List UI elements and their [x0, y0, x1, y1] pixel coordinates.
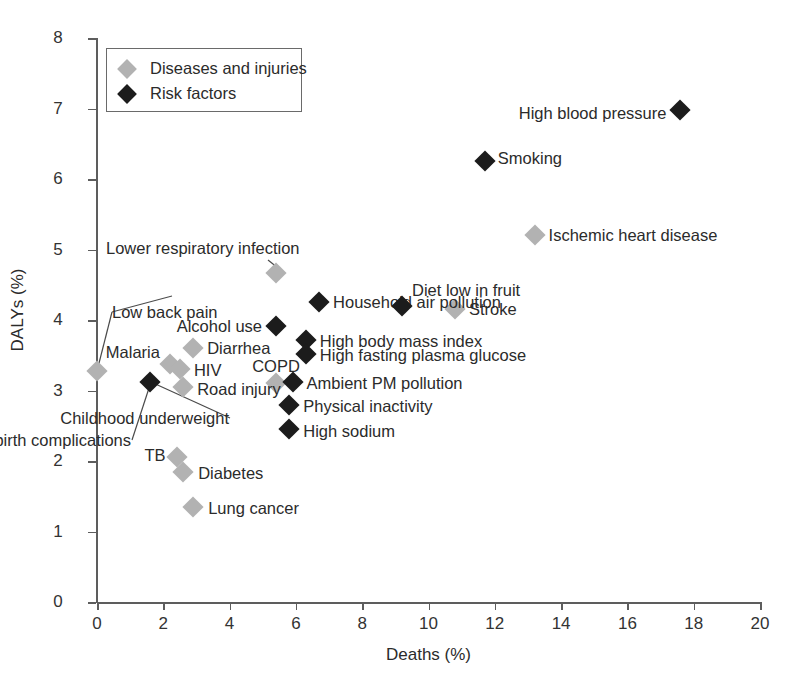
y-tick-label: 5 — [53, 240, 62, 260]
legend-label-risk-factors: Risk factors — [150, 84, 236, 103]
x-tick-mark — [429, 602, 431, 610]
x-tick-label: 12 — [485, 614, 504, 634]
x-tick-label: 0 — [92, 614, 101, 634]
x-axis-title: Deaths (%) — [97, 645, 760, 665]
legend: Diseases and injuries Risk factors — [106, 48, 302, 112]
data-point-household-air-pollution — [308, 292, 329, 313]
x-tick-mark — [163, 602, 165, 610]
x-tick-label: 14 — [552, 614, 571, 634]
data-label-hiv: HIV — [194, 362, 222, 379]
data-point-high-sodium — [279, 419, 300, 440]
x-tick-label: 2 — [159, 614, 168, 634]
y-tick-label: 8 — [53, 28, 62, 48]
x-tick-mark — [97, 602, 99, 610]
y-axis-line — [96, 38, 98, 603]
x-tick-label: 10 — [419, 614, 438, 634]
y-tick-mark — [88, 38, 96, 40]
data-point-childhood-underweight — [139, 371, 160, 392]
y-tick-mark — [88, 532, 96, 534]
data-label-tb: TB — [144, 447, 165, 464]
x-tick-mark — [495, 602, 497, 610]
data-point-alcohol-use — [265, 315, 286, 336]
x-tick-label: 6 — [291, 614, 300, 634]
y-tick-mark — [88, 179, 96, 181]
data-point-lower-respiratory-infection — [265, 262, 286, 283]
data-label-lower-respiratory-infection: Lower respiratory infection — [106, 240, 300, 257]
data-point-smoking — [474, 151, 495, 172]
y-tick-mark — [88, 320, 96, 322]
y-tick-label: 3 — [53, 381, 62, 401]
y-tick-label: 0 — [53, 592, 62, 612]
data-point-high-blood-pressure — [670, 99, 691, 120]
x-tick-mark — [627, 602, 629, 610]
data-label-physical-inactivity: Physical inactivity — [303, 397, 432, 414]
data-label-high-fasting-plasma-glucose: High fasting plasma glucose — [320, 347, 526, 364]
data-point-diarrhea — [183, 338, 204, 359]
data-label-diet-low-in-fruit: Diet low in fruit — [412, 282, 520, 299]
y-tick-mark — [88, 109, 96, 111]
data-point-road-injury — [173, 376, 194, 397]
data-point-physical-inactivity — [279, 394, 300, 415]
legend-item-diseases: Diseases and injuries — [116, 56, 292, 81]
y-tick-mark — [88, 461, 96, 463]
y-axis-title: DALYs (%) — [8, 230, 28, 390]
data-point-ischemic-heart-disease — [524, 225, 545, 246]
x-tick-mark — [362, 602, 364, 610]
x-tick-label: 20 — [751, 614, 770, 634]
x-tick-mark — [760, 602, 762, 610]
y-tick-mark — [88, 391, 96, 393]
x-tick-label: 16 — [618, 614, 637, 634]
diamond-marker-icon — [117, 59, 137, 79]
data-point-low-back-pain — [86, 361, 107, 382]
x-tick-mark — [694, 602, 696, 610]
data-label-lung-cancer: Lung cancer — [208, 500, 299, 517]
y-tick-label: 1 — [53, 522, 62, 542]
data-label-smoking: Smoking — [498, 150, 562, 167]
data-label-road-injury: Road injury — [197, 381, 280, 398]
data-label-high-sodium: High sodium — [303, 423, 395, 440]
data-label-alcohol-use: Alcohol use — [177, 317, 262, 334]
y-tick-label: 2 — [53, 451, 62, 471]
data-label-diabetes: Diabetes — [198, 464, 263, 481]
legend-item-risk-factors: Risk factors — [116, 81, 292, 106]
data-label-preterm-birth-complications: Preterm birth complications — [0, 432, 131, 449]
y-tick-label: 4 — [53, 310, 62, 330]
diamond-marker-icon — [117, 84, 137, 104]
data-point-lung-cancer — [183, 496, 204, 517]
data-label-childhood-underweight: Childhood underweight — [60, 410, 229, 427]
y-tick-label: 7 — [53, 99, 62, 119]
y-tick-mark — [88, 250, 96, 252]
x-tick-label: 8 — [357, 614, 366, 634]
data-label-ambient-pm-pollution: Ambient PM pollution — [307, 375, 463, 392]
legend-label-diseases: Diseases and injuries — [150, 59, 307, 78]
y-tick-mark — [88, 602, 96, 604]
data-label-malaria: Malaria — [106, 344, 160, 361]
y-tick-label: 6 — [53, 169, 62, 189]
x-tick-label: 18 — [684, 614, 703, 634]
x-tick-mark — [230, 602, 232, 610]
data-label-high-blood-pressure: High blood pressure — [519, 105, 667, 122]
scatter-chart: 02468101214161820 012345678 Deaths (%) D… — [0, 0, 797, 699]
data-label-ischemic-heart-disease: Ischemic heart disease — [549, 227, 718, 244]
x-tick-label: 4 — [225, 614, 234, 634]
data-label-diarrhea: Diarrhea — [207, 340, 270, 357]
x-tick-mark — [561, 602, 563, 610]
x-tick-mark — [296, 602, 298, 610]
